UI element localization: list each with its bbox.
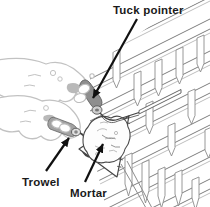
mortar-label: Mortar: [70, 187, 107, 199]
mortar-drawing: [83, 116, 130, 163]
mortar-joint-teeth: [125, 153, 199, 207]
tuck-pointer-label: Tuck pointer: [113, 4, 184, 16]
brick-wall-drawing: [86, 0, 210, 207]
trowel-label: Trowel: [22, 176, 60, 188]
diagram-canvas: Tuck pointer Trowel Mortar: [0, 0, 210, 207]
trowel-arrow: [46, 138, 69, 171]
tuckpointing-diagram: Tuck pointer Trowel Mortar: [0, 0, 210, 207]
